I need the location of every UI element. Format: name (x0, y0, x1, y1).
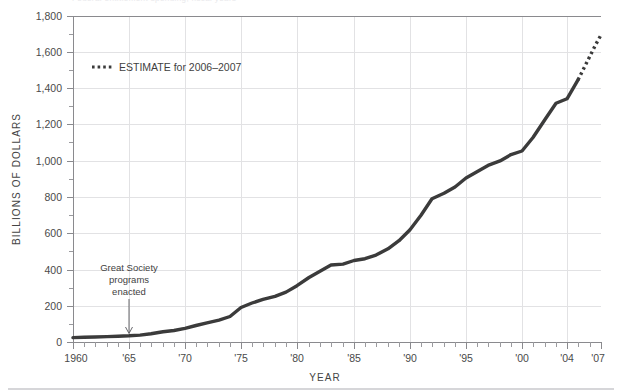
y-tick-600: 600 (44, 227, 62, 239)
annotation-down-arrow-icon (126, 299, 133, 334)
x-tick-1975: '75 (234, 352, 248, 364)
x-axis-minor-ticks (84, 342, 590, 347)
y-tick-0: 0 (56, 336, 62, 348)
annotation-line-1: Great Society (100, 262, 158, 273)
x-tick-2007: '07 (591, 352, 605, 364)
y-tick-200: 200 (44, 300, 62, 312)
clipped-header-text: Federal entitlement spending, fiscal yea… (72, 0, 236, 3)
x-tick-1970: '70 (178, 352, 192, 364)
y-tick-1600: 1,600 (36, 46, 62, 58)
series-polyline-actual (73, 80, 578, 338)
legend-label: ESTIMATE for 2006–2007 (119, 61, 242, 73)
x-tick-1965: '65 (122, 352, 136, 364)
x-tick-1990: '90 (403, 352, 417, 364)
y-tick-800: 800 (44, 191, 62, 203)
series-polyline-estimate (578, 35, 601, 80)
x-axis-tick-labels: 1960 '65 '70 '75 '80 '85 '90 '95 '00 '04… (64, 352, 605, 364)
y-axis-tick-labels: 1,800 1,600 1,400 1,200 1,000 800 600 40… (36, 10, 62, 348)
y-tick-1400: 1,400 (36, 82, 62, 94)
x-axis-title: YEAR (309, 372, 341, 383)
y-tick-400: 400 (44, 264, 62, 276)
y-axis-minor-ticks (69, 34, 73, 324)
annotation-line-2: programs (109, 274, 149, 285)
y-tick-1200: 1,200 (36, 118, 62, 130)
line-chart-svg: 1,800 1,600 1,400 1,200 1,000 800 600 40… (0, 0, 622, 392)
x-tick-2004: '04 (560, 352, 574, 364)
y-axis-title: BILLIONS OF DOLLARS (11, 113, 22, 245)
annotation-line-3: enacted (112, 286, 146, 297)
y-tick-1000: 1,000 (36, 155, 62, 167)
chart-legend: ESTIMATE for 2006–2007 (92, 61, 242, 73)
x-tick-1985: '85 (347, 352, 361, 364)
x-tick-1995: '95 (459, 352, 473, 364)
y-tick-1800: 1,800 (36, 10, 62, 22)
x-tick-1980: '80 (290, 352, 304, 364)
x-tick-2000: '00 (515, 352, 529, 364)
x-axis-major-ticks (73, 342, 601, 349)
x-tick-1960: 1960 (64, 352, 88, 364)
chart-figure: Federal entitlement spending, fiscal yea… (0, 0, 622, 392)
